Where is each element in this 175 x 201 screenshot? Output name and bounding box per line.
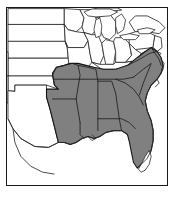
water-lake-huron	[116, 14, 126, 34]
state-south-dakota	[8, 25, 65, 42]
map-frame-border	[6, 7, 168, 186]
distribution-map-figure	[0, 0, 175, 201]
state-colorado	[7, 52, 8, 76]
state-north-dakota	[8, 9, 64, 25]
state-indiana	[102, 40, 116, 65]
map-canvas	[7, 8, 167, 185]
water-lake-superior	[84, 9, 118, 17]
state-nebraska	[8, 42, 68, 59]
